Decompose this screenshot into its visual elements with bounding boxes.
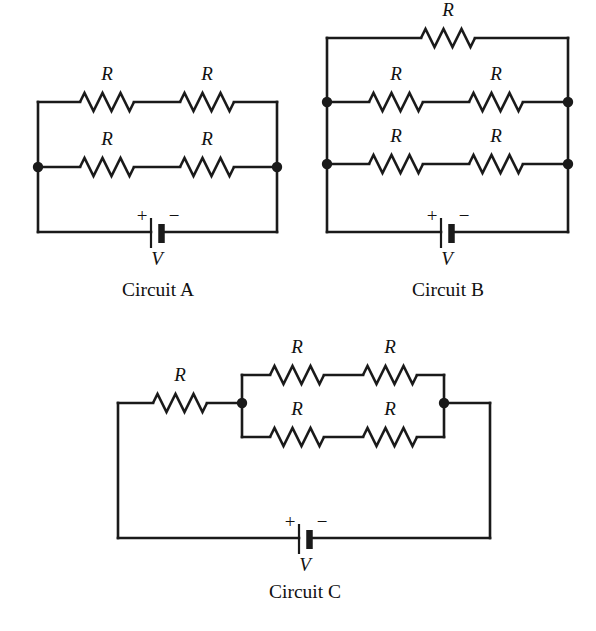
circuit-c-group: R R R R R + − V Circuit C <box>118 336 490 602</box>
circuit-c-node-right <box>439 398 449 408</box>
circuit-b-battery-plus-sign: + <box>427 205 438 226</box>
circuit-a-caption: Circuit A <box>122 279 194 300</box>
circuit-c-resistor-bottom-right-label: R <box>383 398 396 419</box>
circuit-c-resistor-bottom-right-zigzag <box>363 428 417 446</box>
circuit-diagram-figure: R R R R + − V Circuit A <box>0 0 596 631</box>
circuit-b-resistor-mid-left-zigzag <box>369 93 423 111</box>
circuit-a-resistor-top-right-label: R <box>200 63 213 84</box>
circuit-c-resistor-top-left-label: R <box>290 336 303 357</box>
circuit-a-node-left <box>33 162 43 172</box>
circuit-c-resistor-series-label: R <box>173 364 186 385</box>
circuit-b-node-bottom-left <box>322 159 332 169</box>
circuit-diagram-svg: R R R R + − V Circuit A <box>0 0 596 631</box>
circuit-b-resistor-low-left-zigzag <box>369 155 423 173</box>
circuit-c-resistor-series-zigzag <box>153 394 207 412</box>
circuit-b-resistor-top-label: R <box>441 0 454 20</box>
circuit-b-node-bottom-right <box>563 159 573 169</box>
circuit-c-battery-label: V <box>299 554 313 575</box>
circuit-a-battery-minus-sign: − <box>169 205 180 226</box>
circuit-a-battery-plus-sign: + <box>137 205 148 226</box>
circuit-b-resistor-low-right-zigzag <box>469 155 523 173</box>
circuit-c-resistor-top-right-label: R <box>383 336 396 357</box>
circuit-b-battery-minus-sign: − <box>459 205 470 226</box>
circuit-b-caption: Circuit B <box>412 279 484 300</box>
circuit-b-resistor-low-left-label: R <box>389 125 402 146</box>
circuit-a-resistor-top-left-zigzag <box>80 93 134 111</box>
circuit-c-resistor-bottom-left-zigzag <box>270 428 324 446</box>
circuit-c-resistor-bottom-left-label: R <box>290 398 303 419</box>
circuit-a-resistor-top-left-label: R <box>100 63 113 84</box>
circuit-b-resistor-mid-right-label: R <box>489 63 502 84</box>
circuit-a-node-right <box>272 162 282 172</box>
circuit-b-node-top-left <box>322 97 332 107</box>
circuit-b-battery-label: V <box>441 248 455 269</box>
circuit-c-battery-minus-sign: − <box>317 511 328 532</box>
circuit-c-resistor-top-right-zigzag <box>363 366 417 384</box>
circuit-a-resistor-mid-right-label: R <box>200 128 213 149</box>
circuit-b-resistor-top-zigzag <box>421 29 475 47</box>
circuit-a-resistor-mid-left-zigzag <box>80 158 134 176</box>
circuit-a-group: R R R R + − V Circuit A <box>33 63 282 300</box>
circuit-b-node-top-right <box>563 97 573 107</box>
circuit-a-resistor-mid-right-zigzag <box>180 158 234 176</box>
circuit-c-resistor-top-left-zigzag <box>270 366 324 384</box>
circuit-c-node-left <box>237 398 247 408</box>
circuit-b-resistor-mid-right-zigzag <box>469 93 523 111</box>
circuit-b-resistor-low-right-label: R <box>489 125 502 146</box>
circuit-a-battery-label: V <box>151 248 165 269</box>
circuit-a-resistor-top-right-zigzag <box>180 93 234 111</box>
circuit-a-resistor-mid-left-label: R <box>100 128 113 149</box>
circuit-b-resistor-mid-left-label: R <box>389 63 402 84</box>
circuit-c-battery-plus-sign: + <box>285 511 296 532</box>
circuit-c-caption: Circuit C <box>269 581 341 602</box>
circuit-b-group: R R R R R + − V Circuit B <box>322 0 573 300</box>
